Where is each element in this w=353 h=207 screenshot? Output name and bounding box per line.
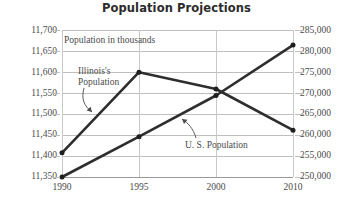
left-tick-dash-2 — [51, 72, 60, 73]
illinois-point-1995 — [137, 70, 142, 75]
right-tick-label-2: 275,000 — [300, 68, 331, 78]
us-population-annotation: U. S. Population — [185, 140, 248, 151]
illinois-point-2000 — [214, 87, 219, 92]
left-tick-dash-3 — [51, 93, 60, 94]
left-tick-dash-5 — [51, 135, 60, 136]
us-label-leader — [182, 119, 196, 138]
series-us-population — [60, 43, 296, 180]
right-tick-label-1: 280,000 — [300, 47, 331, 57]
us-point-1995 — [137, 134, 142, 139]
right-tick-label-5: 260,000 — [300, 130, 331, 140]
x-tick-label-2010: 2010 — [263, 183, 323, 193]
us-point-2000 — [214, 93, 219, 98]
x-tick-label-1990: 1990 — [32, 183, 92, 193]
right-tick-label-3: 270,000 — [300, 89, 331, 99]
right-tick-dash-7 — [295, 177, 304, 178]
units-annotation: Population in thousands — [64, 35, 155, 46]
left-tick-dash-6 — [51, 156, 60, 157]
illinois-population-annotation: Illinois's Population — [78, 66, 119, 87]
right-tick-label-4: 265,000 — [300, 109, 331, 119]
right-tick-dash-4 — [295, 114, 304, 115]
illinois-point-2010 — [291, 128, 296, 133]
left-tick-dash-0 — [51, 30, 60, 31]
right-tick-label-0: 285,000 — [300, 26, 331, 36]
right-tick-dash-2 — [295, 72, 304, 73]
right-tick-dash-5 — [295, 135, 304, 136]
right-tick-dash-3 — [295, 93, 304, 94]
left-tick-dash-1 — [51, 51, 60, 52]
x-tick-label-2000: 2000 — [186, 183, 246, 193]
right-tick-dash-6 — [295, 156, 304, 157]
left-tick-dash-7 — [51, 177, 60, 178]
left-tick-dash-4 — [51, 114, 60, 115]
us-point-2010 — [291, 43, 296, 48]
right-tick-dash-1 — [295, 51, 304, 52]
illinois-label-leader — [83, 88, 92, 112]
us-point-1990 — [60, 175, 65, 180]
right-tick-dash-0 — [295, 30, 304, 31]
illinois-point-1990 — [60, 150, 65, 155]
right-tick-label-6: 255,000 — [300, 151, 331, 161]
x-tick-label-1995: 1995 — [109, 183, 169, 193]
right-tick-label-7: 250,000 — [300, 172, 331, 182]
population-projections-chart: Population Projections 11,700 11,65 — [0, 0, 353, 207]
